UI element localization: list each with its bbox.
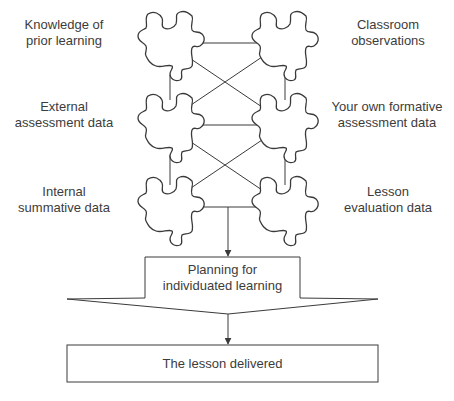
- label-line: Classroom: [322, 17, 454, 33]
- puzzle-piece-formative-assessment: [252, 93, 318, 162]
- label-line: observations: [322, 33, 454, 49]
- label-line: Internal: [0, 184, 128, 200]
- label-internal-summative: Internal summative data: [0, 184, 128, 216]
- puzzle-piece-external-assessment: [138, 93, 204, 162]
- label-line: assessment data: [0, 115, 128, 131]
- label-line: evaluation data: [322, 200, 454, 216]
- label-line: External: [0, 99, 128, 115]
- label-line: individuated learning: [145, 278, 300, 294]
- label-prior-learning: Knowledge of prior learning: [0, 17, 128, 49]
- puzzle-piece-internal-summative: [138, 176, 204, 245]
- label-classroom-observations: Classroom observations: [322, 17, 454, 49]
- label-line: summative data: [0, 200, 128, 216]
- lesson-delivered-label: The lesson delivered: [67, 356, 378, 372]
- label-external-assessment: External assessment data: [0, 99, 128, 131]
- label-formative-assessment: Your own formative assessment data: [320, 99, 454, 131]
- puzzle-piece-lesson-evaluation: [252, 176, 318, 245]
- planning-label: Planning for individuated learning: [145, 262, 300, 294]
- label-lesson-evaluation: Lesson evaluation data: [322, 184, 454, 216]
- label-line: prior learning: [0, 33, 128, 49]
- label-line: Knowledge of: [0, 17, 128, 33]
- label-line: Lesson: [322, 184, 454, 200]
- puzzle-piece-classroom-observations: [252, 11, 318, 80]
- puzzle-piece-prior-learning: [138, 11, 204, 80]
- label-line: Your own formative: [320, 99, 454, 115]
- label-line: Planning for: [145, 262, 300, 278]
- label-line: assessment data: [320, 115, 454, 131]
